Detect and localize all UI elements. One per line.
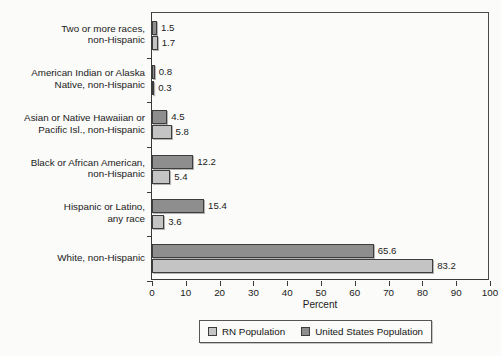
category-label: Two or more races,non-Hispanic bbox=[0, 23, 145, 46]
x-axis-tick-label: 20 bbox=[214, 287, 225, 298]
bar-rn-population bbox=[152, 36, 158, 50]
x-axis-tick bbox=[152, 281, 153, 286]
legend-item: RN Population bbox=[208, 326, 285, 337]
legend-swatch-rn bbox=[208, 327, 217, 336]
category-label: White, non-Hispanic bbox=[0, 252, 145, 264]
bar-chart: Two or more races,non-HispanicAmerican I… bbox=[0, 0, 501, 356]
bar-us-population bbox=[152, 21, 157, 35]
x-axis-tick-label: 70 bbox=[383, 287, 394, 298]
category-label: Asian or Native Hawaiian orPacific Isl.,… bbox=[0, 112, 145, 135]
bar-value-label: 1.5 bbox=[161, 23, 174, 33]
bar-us-population bbox=[152, 155, 193, 169]
bar-value-label: 0.3 bbox=[158, 83, 171, 93]
bar-value-label: 3.6 bbox=[168, 217, 181, 227]
x-axis-tick-label: 100 bbox=[482, 287, 498, 298]
category-label-line: American Indian or Alaska bbox=[0, 67, 145, 79]
category-tick bbox=[147, 192, 152, 193]
x-axis-tick-label: 40 bbox=[282, 287, 293, 298]
bar-value-label: 65.6 bbox=[378, 246, 397, 256]
x-axis-tick-label: 80 bbox=[417, 287, 428, 298]
x-axis-tick bbox=[355, 281, 356, 286]
bar-us-population bbox=[152, 65, 155, 79]
category-label-line: non-Hispanic bbox=[0, 168, 145, 180]
bar-rn-population bbox=[152, 125, 172, 139]
bar-rn-population bbox=[152, 170, 170, 184]
x-axis-tick-label: 60 bbox=[349, 287, 360, 298]
x-axis-tick-label: 30 bbox=[248, 287, 259, 298]
bar-value-label: 4.5 bbox=[171, 112, 184, 122]
bar-value-label: 0.8 bbox=[159, 67, 172, 77]
category-label: Hispanic or Latino,any race bbox=[0, 201, 145, 224]
x-axis-tick-label: 90 bbox=[451, 287, 462, 298]
x-axis-tick bbox=[321, 281, 322, 286]
plot-area: 1.51.70.80.34.55.812.25.415.43.665.683.2… bbox=[151, 12, 489, 280]
x-axis-tick-label: 50 bbox=[316, 287, 327, 298]
category-label-line: non-Hispanic bbox=[0, 34, 145, 46]
category-tick bbox=[147, 236, 152, 237]
x-axis-tick bbox=[389, 281, 390, 286]
chart-legend: RN PopulationUnited States Population bbox=[199, 320, 432, 343]
x-axis-tick bbox=[490, 281, 491, 286]
bar-rn-population bbox=[152, 259, 433, 273]
legend-item: United States Population bbox=[301, 326, 423, 337]
category-tick bbox=[147, 147, 152, 148]
x-axis-title: Percent bbox=[151, 299, 489, 310]
category-label-line: White, non-Hispanic bbox=[0, 252, 145, 264]
bar-value-label: 5.8 bbox=[176, 127, 189, 137]
category-label-line: Two or more races, bbox=[0, 23, 145, 35]
x-axis-tick bbox=[456, 281, 457, 286]
x-axis-tick bbox=[220, 281, 221, 286]
category-label-line: Asian or Native Hawaiian or bbox=[0, 112, 145, 124]
x-axis-tick-label: 10 bbox=[180, 287, 191, 298]
category-tick bbox=[147, 58, 152, 59]
legend-swatch-us bbox=[301, 327, 310, 336]
bar-value-label: 83.2 bbox=[437, 261, 456, 271]
x-axis-tick-label: 0 bbox=[149, 287, 154, 298]
category-label-line: Pacific Isl., non-Hispanic bbox=[0, 124, 145, 136]
bar-value-label: 12.2 bbox=[197, 157, 216, 167]
category-label-line: Native, non-Hispanic bbox=[0, 79, 145, 91]
bar-value-label: 5.4 bbox=[174, 172, 187, 182]
category-tick bbox=[147, 102, 152, 103]
bar-rn-population bbox=[152, 81, 154, 95]
x-axis-tick bbox=[287, 281, 288, 286]
bar-us-population bbox=[152, 244, 374, 258]
bar-us-population bbox=[152, 110, 167, 124]
legend-label: United States Population bbox=[315, 326, 423, 337]
bar-us-population bbox=[152, 199, 204, 213]
bar-value-label: 1.7 bbox=[162, 38, 175, 48]
category-label-line: any race bbox=[0, 213, 145, 225]
legend-label: RN Population bbox=[222, 326, 285, 337]
bar-rn-population bbox=[152, 215, 164, 229]
x-axis-tick bbox=[253, 281, 254, 286]
category-label: Black or African American,non-Hispanic bbox=[0, 157, 145, 180]
bar-value-label: 15.4 bbox=[208, 201, 227, 211]
category-label-line: Hispanic or Latino, bbox=[0, 201, 145, 213]
x-axis-tick bbox=[422, 281, 423, 286]
category-label-line: Black or African American, bbox=[0, 157, 145, 169]
x-axis-tick bbox=[186, 281, 187, 286]
category-label: American Indian or AlaskaNative, non-His… bbox=[0, 67, 145, 90]
